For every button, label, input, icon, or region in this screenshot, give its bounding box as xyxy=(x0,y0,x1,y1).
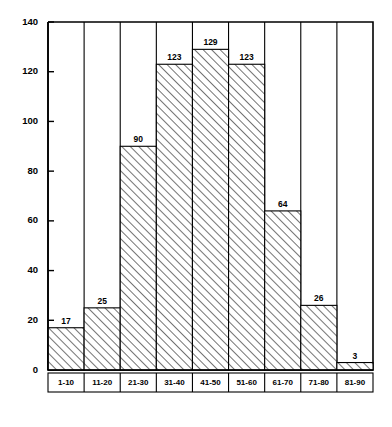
y-axis-tick-label: 60 xyxy=(27,214,38,225)
x-axis-tick-label: 31-40 xyxy=(164,378,185,387)
bar-value-label: 123 xyxy=(240,52,254,62)
bar xyxy=(120,146,156,370)
bar xyxy=(192,49,228,370)
x-axis-tick-label: 81-90 xyxy=(345,378,366,387)
y-axis-tick-label: 100 xyxy=(22,115,38,126)
bar-value-label: 129 xyxy=(203,37,217,47)
bar-value-label: 17 xyxy=(61,316,71,326)
bar xyxy=(48,328,84,370)
bar xyxy=(229,64,265,370)
x-axis-tick-label: 51-60 xyxy=(236,378,257,387)
bar xyxy=(84,308,120,370)
x-axis-tick-label: 71-80 xyxy=(309,378,330,387)
y-axis-tick-label: 0 xyxy=(33,364,38,375)
x-axis-tick-label: 61-70 xyxy=(272,378,293,387)
x-axis-tick-label: 41-50 xyxy=(200,378,221,387)
y-axis-tick-label: 140 xyxy=(22,16,38,27)
bar-value-label: 26 xyxy=(314,293,324,303)
bar-value-label: 64 xyxy=(278,199,288,209)
bar xyxy=(337,363,373,370)
histogram-svg: 020406080100120140 17259012312912364263 … xyxy=(0,0,392,427)
bar-value-label: 25 xyxy=(97,296,107,306)
histogram-chart: 020406080100120140 17259012312912364263 … xyxy=(0,0,392,427)
x-axis-tick-label: 1-10 xyxy=(58,378,75,387)
bar xyxy=(265,211,301,370)
bar-value-label: 3 xyxy=(353,351,358,361)
y-axis-tick-label: 20 xyxy=(27,314,38,325)
y-axis-tick-label: 120 xyxy=(22,65,38,76)
x-axis-tick-label: 21-30 xyxy=(128,378,149,387)
y-axis-tick-label: 80 xyxy=(27,165,38,176)
bar xyxy=(301,305,337,370)
y-axis-tick-label: 40 xyxy=(27,264,38,275)
bar xyxy=(156,64,192,370)
bar-value-label: 90 xyxy=(134,134,144,144)
x-axis-tick-label: 11-20 xyxy=(92,378,113,387)
bar-value-label: 123 xyxy=(167,52,181,62)
x-axis-tick-labels: 1-1011-2021-3031-4041-5051-6061-7071-808… xyxy=(58,378,366,387)
